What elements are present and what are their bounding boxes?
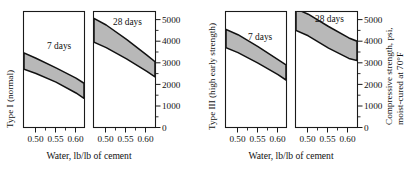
xticks-panel1 xyxy=(106,128,146,133)
compressive-strength-figure: Type I (normal) 0.50 0.55 0.60 7 xyxy=(0,0,409,173)
ytick-label-1000-right: 1000 xyxy=(364,101,383,111)
ytick-label-1000: 1000 xyxy=(162,101,181,111)
panel-type-iii-7days: 0.50 0.55 0.60 7 days xyxy=(226,12,287,145)
chart-canvas: Type I (normal) 0.50 0.55 0.60 7 xyxy=(0,0,409,173)
group-left-label: Type I (normal) xyxy=(5,70,15,128)
xtick-label-3: 0.50 xyxy=(97,134,113,144)
annotation-7days-left: 7 days xyxy=(47,41,72,51)
ytick-label-2000: 2000 xyxy=(162,80,181,90)
panel-type-iii-28days: 0.50 0.55 0.60 28 days 0 xyxy=(296,9,383,144)
ytick-label-5000: 5000 xyxy=(162,15,181,25)
xticks-panel2 xyxy=(238,128,278,133)
panel-type-i-7days: 0.50 0.55 0.60 7 days xyxy=(24,12,85,145)
panel-type-i-28days: 0.50 0.55 0.60 28 days xyxy=(94,12,181,145)
yaxis-left-group xyxy=(156,20,161,128)
xtick-label-4: 0.55 xyxy=(117,134,133,144)
ytick-label-5000-right: 5000 xyxy=(364,15,383,25)
xtick-label-10: 0.55 xyxy=(319,134,335,144)
xtick-label-9: 0.50 xyxy=(299,134,315,144)
yaxis-title-line2: moist-cured at 70°F xyxy=(395,52,405,125)
xtick-label-2: 0.60 xyxy=(67,134,83,144)
ytick-label-0-right: 0 xyxy=(364,123,369,133)
ytick-label-4000: 4000 xyxy=(162,36,181,46)
ytick-label-3000: 3000 xyxy=(162,58,181,68)
xaxis-title-left: Water, lb/lb of cement xyxy=(46,150,131,161)
ytick-label-0: 0 xyxy=(162,123,167,133)
xtick-label-6: 0.50 xyxy=(229,134,245,144)
yaxis-right-group xyxy=(358,20,363,128)
xaxis-title-right: Water, lb/lb of cement xyxy=(248,150,333,161)
ytick-label-2000-right: 2000 xyxy=(364,80,383,90)
xtick-label-5: 0.60 xyxy=(137,134,153,144)
xtick-label-8: 0.60 xyxy=(269,134,285,144)
group-right-label: Type III (high early strength) xyxy=(207,23,217,130)
ytick-label-3000-right: 3000 xyxy=(364,58,383,68)
xtick-label-0: 0.50 xyxy=(27,134,43,144)
annotation-28days-left: 28 days xyxy=(113,17,142,27)
group-type-iii: Type III (high early strength) 0.50 0.55 xyxy=(207,9,405,161)
xtick-label-11: 0.60 xyxy=(339,134,355,144)
xticks-panel0 xyxy=(36,128,76,133)
yaxis-title-line1: Compressive strength, psi, xyxy=(384,28,394,125)
xtick-label-7: 0.55 xyxy=(249,134,265,144)
annotation-7days-right: 7 days xyxy=(248,32,273,42)
annotation-28days-right: 28 days xyxy=(315,14,344,24)
xticks-panel3 xyxy=(308,128,348,133)
ytick-label-4000-right: 4000 xyxy=(364,36,383,46)
group-type-i: Type I (normal) 0.50 0.55 0.60 7 xyxy=(5,12,181,162)
xtick-label-1: 0.55 xyxy=(47,134,63,144)
